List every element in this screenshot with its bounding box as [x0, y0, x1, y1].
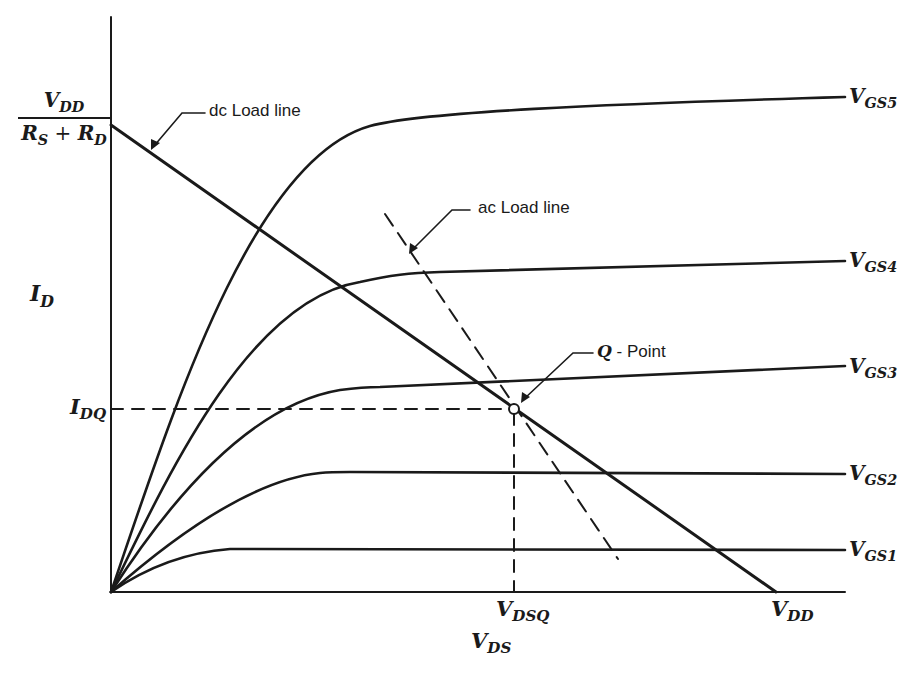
- curve-vgs2: [111, 472, 845, 592]
- x-axis-label: VDS: [471, 628, 511, 657]
- characteristic-plot: [0, 0, 911, 673]
- vdd-main: V: [44, 88, 60, 112]
- ac-load-line-leader: [412, 210, 470, 250]
- dc-load-line-label: dc Load line: [209, 101, 301, 121]
- rs-sub: S: [38, 131, 48, 148]
- curve-vgs5: [111, 97, 845, 592]
- q-point-label: Q - Point: [597, 341, 666, 362]
- q-point-leader: [524, 353, 593, 399]
- vdd-x-label: VDD: [771, 596, 814, 625]
- rd-sub: D: [94, 131, 106, 148]
- rd-main: R: [78, 121, 95, 145]
- curve-vgs3: [111, 366, 845, 592]
- curve-label-vgs3: VGS3: [849, 354, 897, 381]
- plus-sign: +: [48, 121, 77, 145]
- vdd-sub: DD: [59, 98, 84, 115]
- ac-load-line: [385, 214, 618, 559]
- rs-main: R: [21, 121, 38, 145]
- y-intercept-label: VDD RS + RD: [18, 88, 110, 148]
- q-point-marker: [509, 404, 519, 414]
- ac-load-line-label: ac Load line: [478, 198, 570, 218]
- curve-label-vgs4: VGS4: [849, 248, 897, 275]
- curve-label-vgs5: VGS5: [849, 84, 897, 111]
- vdsq-label: VDSQ: [496, 596, 549, 625]
- dc-load-line: [111, 125, 776, 592]
- idq-label: IDQ: [70, 394, 106, 423]
- curve-label-vgs1: VGS1: [849, 537, 897, 564]
- curve-vgs1: [111, 549, 845, 592]
- curve-vgs4: [111, 261, 845, 592]
- y-axis-label: ID: [30, 280, 54, 311]
- dc-load-line-leader: [154, 113, 205, 146]
- curve-label-vgs2: VGS2: [849, 461, 897, 488]
